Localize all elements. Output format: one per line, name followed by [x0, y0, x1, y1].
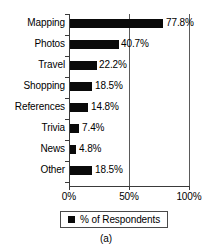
x-tick-100 [189, 186, 190, 190]
bar-row-trivia: Trivia 7.4% [0, 119, 212, 140]
bar-row-references: References 14.8% [0, 98, 212, 119]
bar-value-label: 22.2% [99, 59, 127, 71]
bar-trivia [70, 124, 79, 133]
bar-photos [70, 40, 119, 49]
bar-row-other: Other 18.5% [0, 161, 212, 182]
bar-value-label: 7.4% [82, 122, 104, 134]
bar-value-label: 14.8% [91, 101, 119, 113]
legend-square-marker-icon [68, 216, 75, 223]
bar-chart-figure: Mapping 77.8% Photos 40.7% Travel 22.2% … [0, 0, 212, 252]
bar-value-label: 40.7% [121, 38, 149, 50]
bar-shopping [70, 82, 92, 91]
x-tick-label-0: 0% [55, 191, 83, 203]
bar-row-news: News 4.8% [0, 140, 212, 161]
bar-row-mapping: Mapping 77.8% [0, 14, 212, 35]
x-tick-label-100: 100% [170, 191, 208, 203]
bar-news [70, 145, 76, 154]
bar-category-label: Mapping [0, 17, 65, 29]
bar-mapping [70, 19, 163, 28]
bar-travel [70, 61, 97, 70]
figure-caption: (a) [0, 233, 212, 245]
bar-category-label: News [0, 143, 65, 155]
bar-value-label: 18.5% [95, 164, 123, 176]
bar-other [70, 166, 92, 175]
bar-category-label: Photos [0, 38, 65, 50]
bar-row-shopping: Shopping 18.5% [0, 77, 212, 98]
bar-value-label: 77.8% [166, 17, 194, 29]
x-tick-0 [69, 186, 70, 190]
plot-area: Mapping 77.8% Photos 40.7% Travel 22.2% … [0, 14, 212, 186]
chart-legend: % of Respondents [60, 211, 168, 228]
bar-category-label: Other [0, 164, 65, 176]
bar-category-label: Travel [0, 59, 65, 71]
y-tick [65, 182, 69, 183]
bar-references [70, 103, 88, 112]
bar-value-label: 4.8% [79, 143, 101, 155]
bar-row-photos: Photos 40.7% [0, 35, 212, 56]
bar-row-travel: Travel 22.2% [0, 56, 212, 77]
legend-entry-label: % of Respondents [80, 214, 160, 226]
bar-value-label: 18.5% [95, 80, 123, 92]
bar-category-label: References [0, 101, 65, 113]
x-tick-label-50: 50% [113, 191, 145, 203]
bar-category-label: Shopping [0, 80, 65, 92]
bar-category-label: Trivia [0, 122, 65, 134]
x-tick-50 [129, 186, 130, 190]
